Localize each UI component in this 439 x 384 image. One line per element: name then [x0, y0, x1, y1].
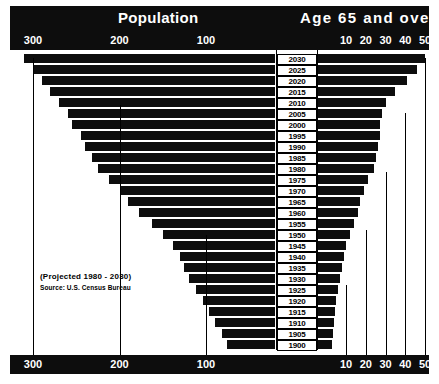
age65-bar: [317, 164, 374, 173]
population-bar: [50, 87, 275, 96]
gridline-right-30: [386, 172, 387, 355]
year-label-1935: 1935: [277, 263, 317, 274]
year-label-1915: 1915: [277, 307, 317, 318]
gridline-right-20: [366, 230, 367, 355]
axis-tick-left-200: 200: [110, 358, 128, 370]
axis-tick-right-30: 30: [379, 34, 391, 46]
year-label-2000: 2000: [277, 120, 317, 131]
chart-annotation: (Projected 1980 - 2030) Source: U.S. Cen…: [40, 272, 131, 291]
population-bar: [227, 340, 275, 349]
year-label-column: 2030202520202015201020052000199519901985…: [276, 50, 318, 350]
axis-tick-right-20: 20: [360, 34, 372, 46]
age65-bar: [317, 340, 332, 349]
year-label-1950: 1950: [277, 230, 317, 241]
population-bar: [68, 109, 275, 118]
age65-bar: [317, 296, 336, 305]
gridline-left-300: [33, 58, 34, 355]
year-label-2030: 2030: [277, 54, 317, 65]
gridline-right-10: [346, 285, 347, 355]
year-label-2005: 2005: [277, 109, 317, 120]
year-label-1920: 1920: [277, 296, 317, 307]
age65-bar: [317, 76, 407, 85]
population-bar: [209, 307, 275, 316]
source-note: Source: U.S. Census Bureau: [40, 284, 131, 291]
year-label-1945: 1945: [277, 241, 317, 252]
population-bar: [163, 230, 275, 239]
population-bar: [139, 208, 275, 217]
age65-bars-pane: [317, 50, 429, 355]
year-label-1955: 1955: [277, 219, 317, 230]
population-bar: [81, 131, 275, 140]
age65-bar: [317, 307, 335, 316]
population-bar: [189, 274, 275, 283]
axis-tick-right-20: 20: [360, 358, 372, 370]
year-label-1990: 1990: [277, 142, 317, 153]
axis-tick-right-40: 40: [399, 34, 411, 46]
age65-bar: [317, 142, 378, 151]
year-label-1905: 1905: [277, 329, 317, 340]
age65-bar: [317, 153, 376, 162]
axis-tick-right-10: 10: [340, 358, 352, 370]
year-label-1980: 1980: [277, 164, 317, 175]
age65-bar: [317, 241, 346, 250]
year-label-1910: 1910: [277, 318, 317, 329]
age65-bar: [317, 329, 333, 338]
gridline-left-100: [206, 235, 207, 355]
year-label-1970: 1970: [277, 186, 317, 197]
population-bar: [173, 241, 275, 250]
year-label-2025: 2025: [277, 65, 317, 76]
population-bar: [196, 285, 275, 294]
population-bar: [24, 54, 275, 63]
age65-bar: [317, 120, 380, 129]
axis-tick-right-10: 10: [340, 34, 352, 46]
age65-bar: [317, 230, 350, 239]
year-label-1940: 1940: [277, 252, 317, 263]
population-bars-pane: [10, 50, 275, 355]
year-label-1930: 1930: [277, 274, 317, 285]
age65-bar: [317, 87, 395, 96]
age65-bar: [317, 219, 354, 228]
projection-note: (Projected 1980 - 2030): [40, 272, 131, 281]
gridline-right-40: [405, 113, 406, 355]
axis-tick-right-40: 40: [399, 358, 411, 370]
axis-tick-left-100: 100: [197, 34, 215, 46]
year-label-1965: 1965: [277, 197, 317, 208]
population-bar: [72, 120, 275, 129]
population-bar: [42, 76, 275, 85]
age65-bar: [317, 54, 425, 63]
age65-bar: [317, 175, 368, 184]
year-label-1985: 1985: [277, 153, 317, 164]
population-bar: [222, 329, 275, 338]
axis-tick-left-300: 300: [24, 358, 42, 370]
population-bar: [120, 186, 276, 195]
year-label-2010: 2010: [277, 98, 317, 109]
population-bar: [184, 263, 275, 272]
population-bar: [33, 65, 275, 74]
age65-bar: [317, 263, 342, 272]
age65-bar: [317, 109, 382, 118]
age65-bar: [317, 186, 364, 195]
population-bar: [59, 98, 275, 107]
gridline-left-200: [120, 105, 121, 355]
age65-bar: [317, 197, 360, 206]
age65-bar: [317, 208, 358, 217]
population-bar: [152, 219, 275, 228]
population-bar: [128, 197, 275, 206]
population-bar: [109, 175, 275, 184]
age65-bar: [317, 131, 380, 140]
axis-tick-right-30: 30: [379, 358, 391, 370]
age65-bar: [317, 285, 338, 294]
axis-tick-right-50: 50: [419, 34, 431, 46]
bottom-axis-tick-bar: 3002001001020304050: [10, 355, 429, 374]
axis-tick-left-100: 100: [197, 358, 215, 370]
age65-bar: [317, 318, 334, 327]
age65-bar: [317, 274, 340, 283]
age65-bar: [317, 252, 344, 261]
age65-bar: [317, 65, 417, 74]
population-bar: [98, 164, 275, 173]
population-pyramid-chart: Population Age 65 and over 3002001001020…: [0, 0, 439, 384]
gridline-right-50: [425, 58, 426, 355]
age65-bar: [317, 98, 386, 107]
chart-header-bar: Population Age 65 and over: [10, 6, 429, 30]
year-label-1925: 1925: [277, 285, 317, 296]
